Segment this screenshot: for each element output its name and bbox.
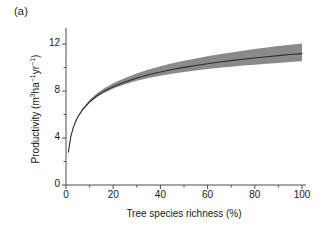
x-tick-label-0: 0 (51, 190, 81, 200)
x-tick-label-100: 100 (287, 190, 317, 200)
y-tick-label-4: 4 (38, 132, 60, 142)
y-tick-label-0: 0 (38, 179, 60, 189)
panel-label: (a) (14, 5, 28, 17)
x-axis-title-text: Tree species richness (%) (84, 208, 241, 219)
y-axis-title-sup-2: −1 (29, 74, 36, 82)
x-tick-label-20: 20 (98, 190, 128, 200)
x-tick-label-80: 80 (240, 190, 270, 200)
confidence-band (68, 43, 302, 152)
figure-panel-a: (a) Productivity (m3ha−1yr−1) Tree speci… (0, 0, 326, 232)
y-tick-label-8: 8 (38, 85, 60, 95)
y-tick-label-12: 12 (38, 38, 60, 48)
y-axis-title-sup-3: −1 (29, 58, 36, 66)
y-axis-title-sup-1: 3 (29, 93, 36, 97)
x-tick-label-60: 60 (193, 190, 223, 200)
x-tick-label-40: 40 (145, 190, 175, 200)
x-tick-label-group: 020406080100 (0, 190, 326, 204)
